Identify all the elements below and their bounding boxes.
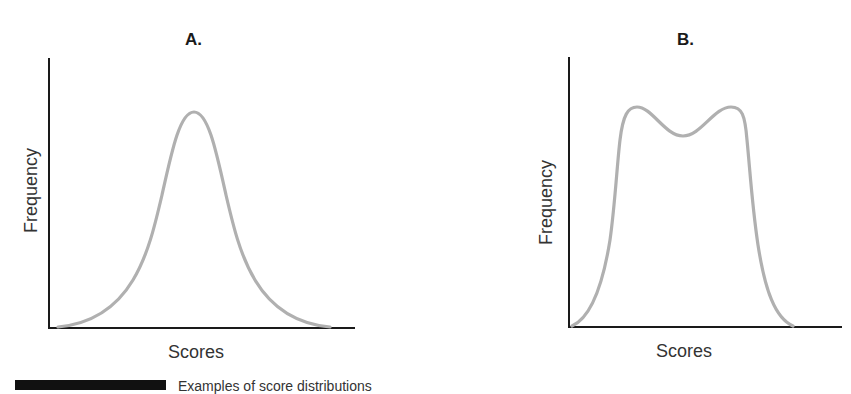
panel-a-axes	[48, 58, 355, 328]
panel-b-title: B.	[677, 30, 694, 50]
panel-a-xlabel: Scores	[168, 342, 224, 363]
panel-b-ylabel: Frequency	[536, 158, 557, 248]
panel-a-ylabel: Frequency	[21, 146, 42, 236]
panel-b-xlabel: Scores	[656, 341, 712, 362]
caption-bar	[15, 380, 166, 390]
caption-text: Examples of score distributions	[178, 378, 372, 394]
panel-b-curve	[572, 107, 793, 326]
panel-b-axes	[568, 57, 842, 327]
panel-a-curve	[58, 112, 330, 327]
panel-a-title: A.	[185, 30, 202, 50]
